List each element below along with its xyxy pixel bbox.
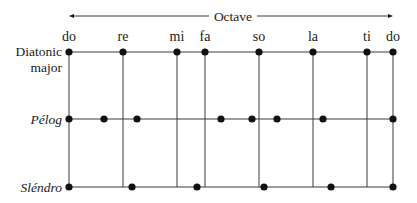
solfege-labels: doremifasolatido: [62, 29, 400, 44]
octave-label: Octave: [214, 9, 252, 24]
pitch-dot: [309, 48, 316, 55]
pitch-dot: [273, 115, 280, 122]
pitch-dot: [128, 183, 135, 190]
solfege-label-so: so: [253, 29, 265, 44]
solfege-label-ti: ti: [363, 29, 371, 44]
solfege-label-mi: mi: [170, 29, 185, 44]
pitch-dot: [217, 115, 224, 122]
scale-row-label: Pélog: [30, 112, 63, 127]
octave-span-indicator: Octave: [69, 9, 393, 24]
pitch-dot: [65, 48, 72, 55]
scale-comparison-diagram: Octave doremifasolatido DiatonicmajorPél…: [0, 0, 417, 203]
solfege-label-re: re: [118, 29, 129, 44]
pitch-dot: [363, 48, 370, 55]
solfege-label-fa: fa: [200, 29, 212, 44]
scale-row-sl-ndro: Sléndro: [21, 180, 397, 195]
pitch-dot: [319, 115, 326, 122]
pitch-dot: [65, 115, 72, 122]
scale-row-diatonic-major: Diatonicmajor: [16, 44, 397, 75]
scale-row-p-log: Pélog: [30, 112, 397, 127]
pitch-dot: [260, 183, 267, 190]
pitch-dot: [65, 183, 72, 190]
pitch-dot: [173, 48, 180, 55]
pitch-dot: [389, 183, 396, 190]
pitch-dot: [327, 183, 334, 190]
arrow-right-icon: [388, 14, 393, 18]
pitch-dot: [389, 48, 396, 55]
pitch-dot: [100, 115, 107, 122]
pitch-dot: [255, 48, 262, 55]
solfege-label-la: la: [308, 29, 319, 44]
pitch-dot: [389, 115, 396, 122]
pitch-dot: [201, 48, 208, 55]
solfege-label-do: do: [386, 29, 400, 44]
solfege-label-do: do: [62, 29, 76, 44]
scale-row-label: Diatonic: [16, 44, 63, 59]
arrow-left-icon: [69, 14, 74, 18]
pitch-dot: [193, 183, 200, 190]
scale-row-label: major: [31, 60, 63, 75]
scale-row-label: Sléndro: [21, 180, 63, 195]
scale-rows: DiatonicmajorPélogSléndro: [16, 44, 397, 195]
pitch-dot: [119, 48, 126, 55]
pitch-dot: [248, 115, 255, 122]
pitch-dot: [133, 115, 140, 122]
